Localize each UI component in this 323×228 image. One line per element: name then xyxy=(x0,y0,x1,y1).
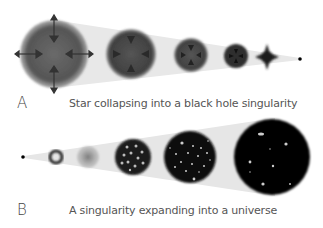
stage-b-1-singularity xyxy=(21,155,25,159)
stage-b-4-early-universe xyxy=(115,139,151,175)
panel-a-diagram xyxy=(15,15,302,93)
panel-b-diagram xyxy=(21,118,310,196)
stage-b-5-expanding-universe xyxy=(164,131,216,183)
diagram-canvas xyxy=(0,0,323,228)
panel-a-letter: A xyxy=(17,94,27,112)
stage-a-4-dense-core xyxy=(224,44,248,68)
panel-b-letter: B xyxy=(17,201,27,219)
stage-a-3-smaller-star xyxy=(174,38,208,72)
stage-b-6-large-universe xyxy=(234,119,310,195)
stage-a-6-singularity xyxy=(298,57,302,61)
panel-b-caption: A singularity expanding into a universe xyxy=(69,204,277,217)
stage-a-2-contracting-star xyxy=(106,29,156,79)
stage-a-5-collapsing-core xyxy=(255,44,279,70)
stage-b-3-diffuse-cloud xyxy=(77,146,99,168)
panel-a-caption: Star collapsing into a black hole singul… xyxy=(69,97,297,110)
